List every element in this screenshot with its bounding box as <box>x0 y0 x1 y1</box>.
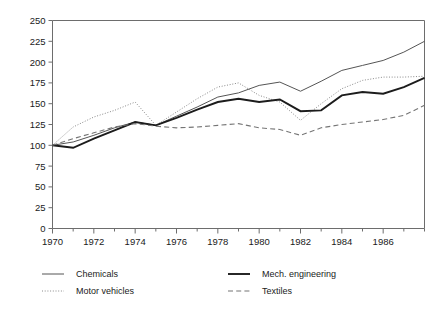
legend-label: Textiles <box>262 286 293 296</box>
x-tick-label: 1986 <box>373 236 394 247</box>
x-tick-label: 1976 <box>166 236 187 247</box>
line-chart-figure: 0255075100125150175200225250 19701972197… <box>0 0 448 320</box>
legend-label: Motor vehicles <box>76 286 135 296</box>
x-tick-label: 1980 <box>249 236 270 247</box>
y-tick-label: 25 <box>35 202 46 213</box>
x-tick-label: 1974 <box>125 236 146 247</box>
y-tick-label: 75 <box>35 161 46 172</box>
y-tick-label: 250 <box>30 15 46 26</box>
y-tick-label: 0 <box>40 223 45 234</box>
legend-label: Chemicals <box>76 269 119 279</box>
y-tick-label: 150 <box>30 98 46 109</box>
x-axis-tick-labels: 197019721974197619781980198219841986 <box>42 236 394 247</box>
figure-background <box>0 0 448 320</box>
x-tick-label: 1982 <box>290 236 311 247</box>
x-tick-label: 1972 <box>83 236 104 247</box>
y-tick-label: 175 <box>30 77 46 88</box>
x-tick-label: 1984 <box>331 236 352 247</box>
y-tick-label: 50 <box>35 181 46 192</box>
x-tick-label: 1978 <box>207 236 228 247</box>
y-tick-label: 225 <box>30 36 46 47</box>
legend-label: Mech. engineering <box>262 269 336 279</box>
y-tick-label: 200 <box>30 57 46 68</box>
x-tick-label: 1970 <box>42 236 63 247</box>
y-tick-label: 125 <box>30 119 46 130</box>
y-tick-label: 100 <box>30 140 46 151</box>
